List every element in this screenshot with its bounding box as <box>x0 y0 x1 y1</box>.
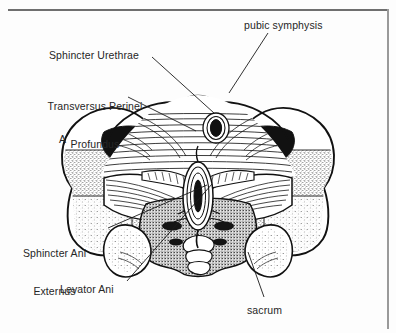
coccyx-segments <box>183 236 214 275</box>
label-sphincter-urethrae: Sphincter Urethrae <box>49 49 139 62</box>
label-transversus-perinei-line1: Transversus Perinei <box>30 100 160 113</box>
urethral-opening <box>203 113 229 143</box>
label-levator-ani: Levator Ani <box>60 283 114 296</box>
label-sacrum: sacrum <box>247 304 282 317</box>
label-sphincter-ani-line1: Sphincter Ani <box>7 247 102 260</box>
label-sphincter-ani-externus: Sphincter Ani Externus <box>7 222 102 322</box>
label-transversus-perinei-line2: Profundus <box>30 138 160 151</box>
leader-pubic-symphysis <box>229 33 268 93</box>
anatomy-figure: A pubic symphysis Sphincter Urethrae Tra… <box>0 0 396 333</box>
label-transversus-perinei-profundus: Transversus Perinei Profundus <box>30 75 160 175</box>
label-pubic-symphysis: pubic symphysis <box>244 19 323 32</box>
